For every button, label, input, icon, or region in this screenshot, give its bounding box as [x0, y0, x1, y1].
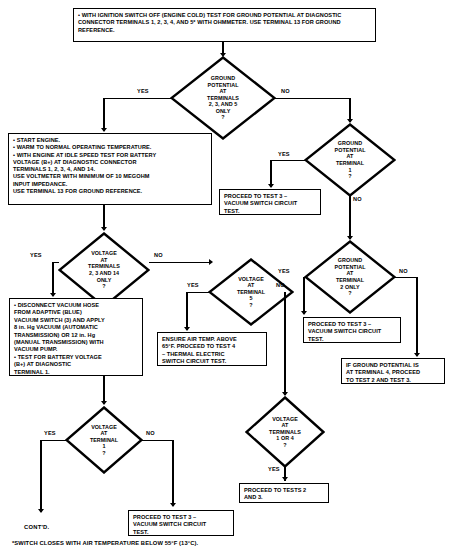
connector-d7-yes-v	[40, 440, 42, 512]
arrowhead-ensure-air-temp	[184, 327, 190, 331]
node-proceed-test3-a: PROCEED TO TEST 3 – VACUUM SWITCH CIRCUI…	[219, 189, 321, 215]
connector-d7-no-h	[142, 440, 174, 442]
edge-label-no-7: NO	[146, 430, 155, 436]
node-proceed-tests-2-3: PROCEED TO TESTS 2 AND 3.	[239, 483, 329, 503]
connector-d1-no-v	[349, 98, 351, 122]
edge-label-yes-1: YES	[137, 88, 149, 94]
node-d-ground-235: GROUND POTENTIAL AT TERMINALS 2, 3, AND …	[170, 56, 276, 140]
node-label: GROUND POTENTIAL AT TERMINAL 2 ONLY ?	[333, 257, 368, 297]
node-label: VOLTAGE AT TERMINALS 1 OR 4 ?	[267, 416, 303, 449]
edge-label-no-3: NO	[399, 268, 408, 274]
edge-label-no-1: NO	[281, 88, 290, 94]
connector-d7-no-v	[172, 440, 174, 506]
connector-d5-no-v	[284, 292, 286, 395]
arrowhead-ground-t4-note	[414, 353, 420, 357]
connector-d1-yes-h	[103, 98, 171, 100]
connector-d4-yes-v	[52, 262, 54, 296]
connector-d1-yes-v	[103, 98, 105, 131]
connector-d3-no-v	[416, 277, 418, 356]
edge-label-yes-2: YES	[278, 151, 290, 157]
node-d-ground-t1: GROUND POTENTIAL AT TERMINAL 1 ?	[304, 123, 396, 197]
edge-label-yes-7: YES	[44, 430, 56, 436]
connector-d2-yes-v	[270, 160, 272, 187]
edge-label-yes-6: YES	[268, 466, 280, 472]
node-start-ignition: • WITH IGNITION SWITCH OFF (ENGINE COLD)…	[73, 8, 376, 42]
node-disconnect-hose: • DISCONNECT VACUUM HOSE FROM ADAPTIVE (…	[9, 298, 143, 376]
arrowhead-proceed-test3-c	[170, 503, 176, 507]
connector-d5-yes-h	[186, 292, 209, 294]
edge-label-no-5: NO	[276, 282, 285, 288]
edge-label-no-2: NO	[353, 196, 362, 202]
node-label: VOLTAGE AT TERMINAL 5 ?	[235, 276, 267, 309]
node-proceed-test3-c: PROCEED TO TEST 3 – VACUUM SWITCH CIRCUI…	[128, 510, 234, 536]
edge-label-yes-4: YES	[30, 252, 42, 258]
flowchart-page: • WITH IGNITION SWITCH OFF (ENGINE COLD)…	[0, 0, 451, 554]
node-ground-t4-note: IF GROUND POTENTIAL IS AT TERMINAL 4, PR…	[341, 358, 445, 384]
arrowhead-disconnect-hose	[50, 293, 56, 297]
arrowhead-proceed-test3-a	[268, 184, 274, 188]
connector-d3-no-h	[395, 277, 418, 279]
connector-d4-no-h	[149, 262, 211, 264]
node-d-ground-t2-only: GROUND POTENTIAL AT TERMINAL 2 ONLY ?	[304, 240, 396, 314]
node-label: VOLTAGE AT TERMINAL 1 ?	[88, 424, 120, 457]
node-label: GROUND POTENTIAL AT TERMINAL 1 ?	[333, 140, 368, 180]
continuation-label: CONT'D.	[24, 524, 49, 530]
connector-d7-yes-h	[40, 440, 66, 442]
node-d-volt-t5: VOLTAGE AT TERMINAL 5 ?	[208, 258, 294, 326]
connector-d1-no-h	[275, 98, 351, 100]
edge-label-no-4: NO	[154, 252, 163, 258]
node-proceed-test3-b: PROCEED TO TEST 3 – VACUUM SWITCH CIRCUI…	[303, 317, 401, 343]
arrowhead-contd	[38, 509, 44, 513]
arrowhead-proceed-tests-2-3	[282, 477, 288, 481]
connector-d2-no-v	[349, 196, 351, 239]
node-start-engine: • START ENGINE. • WARM TO NORMAL OPERATI…	[8, 133, 212, 205]
edge-label-yes-5: YES	[187, 282, 199, 288]
connector-disconnect-to-d7	[103, 376, 105, 404]
footnote: *SWITCH CLOSES WITH AIR TEMPERATURE BELO…	[12, 540, 198, 546]
arrowhead-proceed-test3-b	[301, 311, 307, 315]
node-d-volt-t1: VOLTAGE AT TERMINAL 1 ?	[65, 406, 143, 474]
node-ensure-air-temp: ENSURE AIR TEMP. ABOVE 65°F. PROCEED TO …	[157, 332, 267, 366]
node-label: GROUND POTENTIAL AT TERMINALS 2, 3, AND …	[205, 75, 241, 121]
connector-d2-yes-h	[270, 160, 305, 162]
node-label: VOLTAGE AT TERMINALS 2, 3 AND 14 ONLY ?	[86, 250, 122, 290]
node-d-volt-2314: VOLTAGE AT TERMINALS 2, 3 AND 14 ONLY ?	[58, 232, 150, 308]
arrowhead-d7	[101, 401, 107, 405]
node-d-volt-t1or4: VOLTAGE AT TERMINALS 1 OR 4 ?	[245, 396, 325, 468]
connector-d3-yes-v	[303, 277, 305, 314]
connector-d5-yes-v	[186, 292, 188, 330]
arrowhead-d4	[101, 227, 107, 231]
arrowhead-start-engine	[101, 128, 107, 132]
